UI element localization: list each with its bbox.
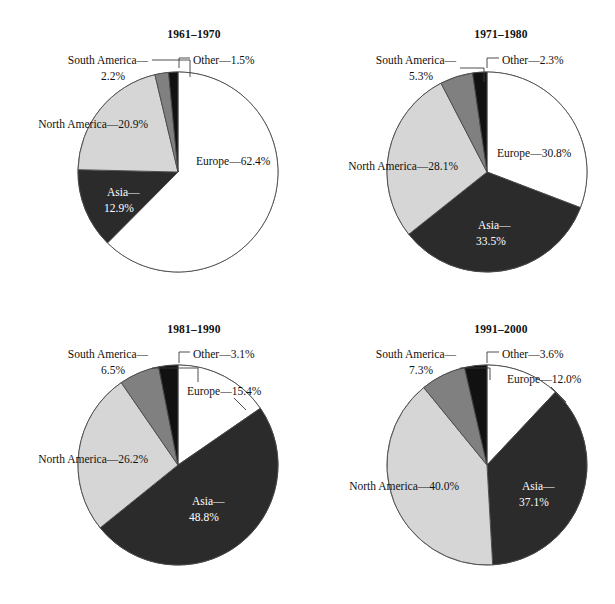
pie-chart-p1: Europe — 62.4%Asia — 12.9%North America …	[78, 72, 278, 272]
p1-asia-label-line2: 12.9%	[104, 202, 134, 214]
p4-other-callout	[487, 352, 499, 363]
p4-south-america-label-line1: South America—	[376, 348, 457, 360]
panel-title-p2: 1971–1980	[474, 28, 528, 40]
p4-asia-label-line1: Asia—	[522, 480, 555, 492]
p1-south-america-label-line2: 2.2%	[101, 70, 125, 82]
p2-south-america-label-line1: South America—	[376, 54, 457, 66]
panel-title-p4: 1991–2000	[474, 323, 528, 335]
p1-other-label: Other—1.5%	[193, 54, 255, 66]
p4-north-america-label: North America—40.0%	[349, 480, 459, 492]
p1-north-america-label: North America—20.9%	[38, 118, 148, 130]
p1-south-america-label-line1: South America—	[68, 54, 149, 66]
p2-south-america-label-line2: 5.3%	[409, 70, 433, 82]
p3-asia-label-line1: Asia—	[192, 495, 225, 507]
p3-europe-label: Europe—15.4%	[187, 385, 262, 398]
panel-title-p3: 1981–1990	[167, 323, 221, 335]
p2-other-label: Other—2.3%	[502, 54, 564, 66]
p3-other-label: Other—3.1%	[193, 348, 255, 360]
p3-south-america-label-line2: 6.5%	[101, 364, 125, 376]
charts-canvas: Europe — 62.4%Asia — 12.9%North America …	[0, 0, 615, 604]
p2-europe-label: Europe—30.8%	[497, 147, 572, 160]
p3-other-callout	[179, 352, 190, 363]
p1-europe-label: Europe—62.4%	[196, 155, 271, 168]
p2-north-america-label: North America—28.1%	[348, 160, 458, 172]
p4-other-label: Other—3.6%	[502, 348, 564, 360]
p2-asia-label-line2: 33.5%	[476, 235, 506, 247]
p3-asia-label-line2: 48.8%	[189, 511, 219, 523]
p3-south-america-label-line1: South America—	[68, 348, 149, 360]
pie-chart-figure: Europe — 62.4%Asia — 12.9%North America …	[0, 0, 615, 604]
p2-asia-label-line1: Asia—	[478, 219, 511, 231]
panels-layer: Europe — 62.4%Asia — 12.9%North America …	[78, 72, 587, 565]
pie-chart-p4: Europe — 12%Asia — 37.1%North America — …	[387, 365, 587, 565]
p4-asia-label-line2: 37.1%	[519, 496, 549, 508]
p2-other-callout	[487, 58, 499, 68]
panel-title-p1: 1961–1970	[167, 28, 221, 40]
p1-other-callout	[179, 58, 190, 68]
p1-asia-label-line1: Asia—	[107, 186, 140, 198]
p4-south-america-label-line2: 7.3%	[409, 364, 433, 376]
p4-europe-label: Europe—12.0%	[507, 373, 582, 386]
p3-north-america-label: North America—26.2%	[38, 453, 148, 465]
